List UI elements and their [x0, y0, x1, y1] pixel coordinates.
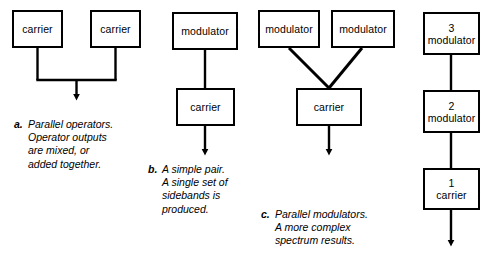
node-label: carrier: [190, 101, 220, 113]
carrier-box: carrier: [296, 88, 362, 126]
node-label: modulator: [428, 34, 476, 46]
modulator-box-right: modulator: [331, 10, 395, 48]
node-label: modulator: [265, 23, 313, 35]
carrier-box-left: carrier: [12, 10, 63, 48]
modulator-box-left: modulator: [258, 10, 320, 48]
caption-c-text: Parallel modulators. A more complex spec…: [275, 208, 368, 248]
node-label: modulator: [339, 23, 387, 35]
figure-canvas: carrier carrier a. Parallel operators. O…: [0, 0, 486, 253]
modulator-box: modulator: [172, 12, 238, 50]
node-number: 2: [449, 100, 455, 112]
node-label: carrier: [314, 101, 344, 113]
carrier-box: carrier: [176, 88, 235, 126]
caption-c: c. Parallel modulators. A more complex s…: [261, 208, 401, 248]
caption-a-tag: a.: [14, 118, 28, 131]
node-number: 3: [449, 22, 455, 34]
caption-a-text: Parallel operators. Operator outputs are…: [28, 118, 113, 171]
modulator-box-2: 2 modulator: [423, 90, 480, 133]
node-label: modulator: [428, 112, 476, 124]
modulator-box-3: 3 modulator: [423, 12, 480, 55]
caption-b-tag: b.: [148, 163, 162, 176]
node-label: modulator: [181, 25, 229, 37]
caption-b: b. A simple pair. A single set of sideba…: [148, 163, 278, 216]
carrier-box-1: 1 carrier: [423, 168, 480, 210]
node-number: 1: [449, 177, 455, 189]
caption-b-text: A simple pair. A single set of sidebands…: [162, 163, 228, 216]
carrier-box-right: carrier: [90, 10, 141, 48]
caption-a: a. Parallel operators. Operator outputs …: [14, 118, 149, 171]
node-label: carrier: [100, 23, 130, 35]
node-label: carrier: [22, 23, 52, 35]
group-a-wires: [36, 48, 116, 97]
caption-c-tag: c.: [261, 208, 275, 221]
node-label: carrier: [436, 189, 466, 201]
